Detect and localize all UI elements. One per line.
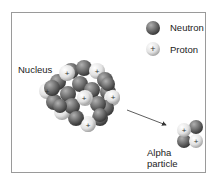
nucleus-label: Nucleus <box>18 64 52 75</box>
legend-proton-icon: + <box>146 42 160 56</box>
svg-text:+: + <box>182 126 187 135</box>
svg-text:+: + <box>150 44 155 54</box>
legend-neutron-icon <box>146 21 160 35</box>
alpha-particle-cluster: + + <box>177 120 203 148</box>
legend-proton-label: Proton <box>170 44 198 55</box>
svg-text:+: + <box>82 94 87 103</box>
legend-neutron-label: Neutron <box>170 22 204 33</box>
alpha-label-line2: particle <box>147 158 178 169</box>
svg-text:+: + <box>111 93 116 102</box>
svg-text:+: + <box>86 121 91 130</box>
svg-text:+: + <box>65 69 70 78</box>
svg-text:+: + <box>45 87 50 96</box>
emission-arrow <box>127 110 166 125</box>
svg-text:+: + <box>95 67 100 76</box>
svg-text:+: + <box>194 137 199 146</box>
alpha-label-line1: Alpha <box>147 147 171 158</box>
